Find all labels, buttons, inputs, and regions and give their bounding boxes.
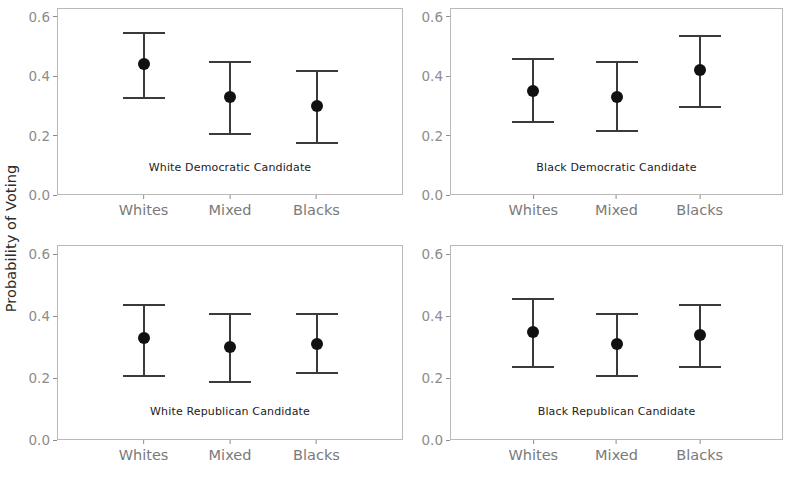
y-axis-tick-mark — [446, 254, 450, 255]
y-axis-tick-mark — [53, 16, 57, 17]
data-point-marker — [694, 329, 706, 341]
y-axis-tick-label: 0.0 — [422, 432, 443, 448]
error-bar-cap-lower — [123, 375, 165, 377]
x-axis-tick-label: Whites — [119, 447, 169, 463]
y-axis-tick-mark — [446, 195, 450, 196]
error-bar-cap-lower — [123, 97, 165, 99]
error-bar-cap-lower — [512, 121, 554, 123]
x-axis-tick-mixed: Mixed — [209, 440, 252, 463]
x-axis-tick-mark — [699, 195, 700, 199]
figure-root: Probability of Voting 0.00.20.40.6Whites… — [0, 0, 787, 477]
x-axis-tick-label: Whites — [119, 202, 169, 218]
x-axis-tick-mark — [143, 195, 144, 199]
x-axis-tick-mark — [616, 440, 617, 444]
data-point-marker — [611, 338, 623, 350]
data-point-marker — [311, 338, 323, 350]
x-axis-tick-mixed: Mixed — [595, 195, 638, 218]
y-axis-tick-label: 0.2 — [422, 370, 443, 386]
x-axis-tick-label: Blacks — [293, 447, 340, 463]
x-axis-tick-mark — [143, 440, 144, 444]
error-bar-cap-upper — [123, 304, 165, 306]
x-axis-tick-whites: Whites — [508, 440, 558, 463]
y-axis-tick-label: 0.6 — [422, 9, 443, 25]
panel-white-democratic-candidate: 0.00.20.40.6WhitesMixedBlacksWhite Democ… — [57, 8, 403, 195]
panel-black-democratic-candidate: 0.00.20.40.6WhitesMixedBlacksBlack Democ… — [450, 8, 783, 195]
error-bar-cap-upper — [679, 35, 721, 37]
x-axis-tick-label: Blacks — [676, 202, 723, 218]
x-axis-tick-mark — [230, 440, 231, 444]
x-axis-tick-label: Mixed — [595, 447, 638, 463]
panel-annotation-label: Black Democratic Candidate — [536, 161, 696, 174]
y-axis-tick: 0.4 — [422, 308, 450, 324]
y-axis-title: Probability of Voting — [0, 0, 22, 477]
panel-white-republican-candidate: 0.00.20.40.6WhitesMixedBlacksWhite Repub… — [57, 245, 403, 440]
y-axis-tick-mark — [53, 316, 57, 317]
y-axis-tick-label: 0.4 — [29, 68, 50, 84]
x-axis-tick-mark — [230, 195, 231, 199]
error-bar-cap-lower — [512, 366, 554, 368]
error-bar-cap-upper — [512, 58, 554, 60]
error-bar-cap-lower — [296, 142, 338, 144]
y-axis-tick: 0.2 — [29, 128, 57, 144]
error-bar-cap-lower — [209, 133, 251, 135]
y-axis-tick: 0.0 — [422, 432, 450, 448]
y-axis-tick: 0.4 — [29, 68, 57, 84]
y-axis-tick: 0.6 — [29, 246, 57, 262]
error-bar-cap-lower — [596, 375, 638, 377]
x-axis-tick-whites: Whites — [119, 440, 169, 463]
data-point-marker — [611, 91, 623, 103]
y-axis-tick-mark — [446, 440, 450, 441]
panel-annotation-label: White Republican Candidate — [150, 405, 310, 418]
y-axis-tick: 0.2 — [29, 370, 57, 386]
y-axis-tick: 0.0 — [29, 187, 57, 203]
panel-black-republican-candidate: 0.00.20.40.6WhitesMixedBlacksBlack Repub… — [450, 245, 783, 440]
x-axis-tick-mark — [533, 440, 534, 444]
y-axis-tick: 0.6 — [422, 9, 450, 25]
error-bar-cap-upper — [209, 61, 251, 63]
panel-annotation-label: Black Republican Candidate — [538, 405, 696, 418]
data-point-marker — [694, 64, 706, 76]
x-axis-tick-mixed: Mixed — [209, 195, 252, 218]
y-axis-tick: 0.6 — [29, 9, 57, 25]
y-axis-tick-mark — [53, 195, 57, 196]
error-bar-cap-lower — [596, 130, 638, 132]
y-axis-tick: 0.4 — [422, 68, 450, 84]
y-axis-tick-mark — [53, 378, 57, 379]
y-axis-tick-mark — [446, 76, 450, 77]
y-axis-tick-label: 0.6 — [422, 246, 443, 262]
y-axis-tick-mark — [446, 16, 450, 17]
error-bar-cap-upper — [296, 70, 338, 72]
x-axis-tick-mark — [699, 440, 700, 444]
x-axis-tick-mark — [316, 440, 317, 444]
error-bar-cap-upper — [296, 313, 338, 315]
error-bar-cap-upper — [209, 313, 251, 315]
error-bar-cap-lower — [209, 381, 251, 383]
y-axis-tick-label: 0.0 — [422, 187, 443, 203]
y-axis-tick-label: 0.6 — [29, 246, 50, 262]
x-axis-tick-whites: Whites — [119, 195, 169, 218]
x-axis-tick-blacks: Blacks — [293, 195, 340, 218]
y-axis-tick-mark — [53, 440, 57, 441]
x-axis-tick-label: Blacks — [676, 447, 723, 463]
y-axis-tick-label: 0.2 — [29, 128, 50, 144]
y-axis-tick: 0.0 — [422, 187, 450, 203]
x-axis-tick-label: Blacks — [293, 202, 340, 218]
x-axis-tick-mark — [616, 195, 617, 199]
y-axis-tick-label: 0.6 — [29, 9, 50, 25]
y-axis-tick-label: 0.2 — [29, 370, 50, 386]
data-point-marker — [527, 326, 539, 338]
x-axis-tick-mark — [316, 195, 317, 199]
data-point-marker — [138, 332, 150, 344]
y-axis-tick-label: 0.0 — [29, 187, 50, 203]
y-axis-tick: 0.4 — [29, 308, 57, 324]
error-bar-cap-lower — [296, 372, 338, 374]
y-axis-tick-label: 0.4 — [422, 68, 443, 84]
data-point-marker — [138, 58, 150, 70]
error-bar-cap-upper — [679, 304, 721, 306]
x-axis-tick-mark — [533, 195, 534, 199]
y-axis-tick: 0.2 — [422, 370, 450, 386]
x-axis-tick-mixed: Mixed — [595, 440, 638, 463]
x-axis-tick-blacks: Blacks — [293, 440, 340, 463]
error-bar-cap-upper — [596, 61, 638, 63]
y-axis-tick-mark — [53, 254, 57, 255]
